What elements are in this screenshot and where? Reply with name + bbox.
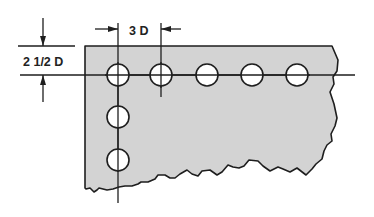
edge-distance-label: 2 1/2 D [23, 55, 63, 69]
pitch-label: 3 D [129, 24, 148, 38]
rivet-spacing-diagram: 2 1/2 D 3 D [0, 0, 374, 217]
